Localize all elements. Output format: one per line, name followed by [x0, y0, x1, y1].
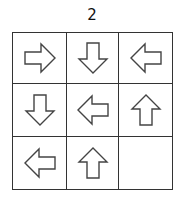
arrow-up-icon	[76, 146, 110, 180]
grid-cell	[67, 84, 119, 137]
arrow-left-icon	[23, 146, 57, 180]
grid-cell	[67, 137, 119, 189]
arrow-right-icon	[23, 41, 57, 75]
grid-cell	[119, 33, 172, 84]
grid-cell	[13, 137, 67, 189]
grid-cell	[67, 33, 119, 84]
grid-cell	[13, 84, 67, 137]
arrow-down-icon	[23, 93, 57, 127]
arrow-left-icon	[129, 41, 163, 75]
empty-cell	[119, 137, 172, 189]
puzzle-number: 2	[0, 6, 184, 24]
grid-cell	[119, 84, 172, 137]
grid-cell	[13, 33, 67, 84]
arrow-down-icon	[76, 41, 110, 75]
arrow-up-icon	[129, 93, 163, 127]
arrow-grid	[12, 32, 173, 190]
arrow-left-icon	[76, 93, 110, 127]
